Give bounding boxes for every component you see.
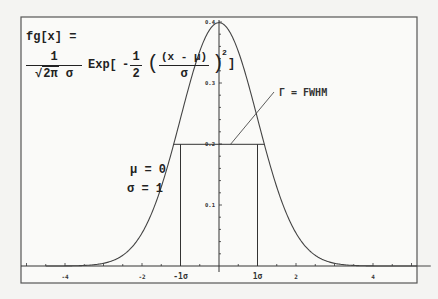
left-paren: (	[147, 52, 159, 75]
formula-lhs: fg[x] =	[26, 30, 76, 44]
y-tick-label: 0.4	[205, 19, 216, 25]
x-tick-label: 2	[294, 273, 298, 280]
coefficient-fraction: 1 √2π σ	[26, 50, 82, 81]
coef-numerator: 1	[26, 50, 82, 64]
x-tick-label: -2	[138, 273, 146, 280]
sigma-label: -1σ	[173, 272, 188, 281]
inner-fraction: (x - μ) σ	[159, 50, 209, 81]
x-tick-label: 4	[371, 273, 375, 280]
exponent: 2	[222, 48, 227, 57]
sigma-param: σ = 1	[127, 182, 163, 196]
mu-param: μ = 0	[130, 163, 166, 177]
sigma-label: 1σ	[253, 272, 263, 281]
half-fraction: 1 2	[130, 50, 142, 81]
coef-denominator: √2π σ	[26, 67, 82, 81]
gaussian-chart: -4-2240.10.20.30.4-1σ1σΓ = FWHM	[0, 0, 438, 299]
minus-sign: -	[122, 58, 129, 72]
y-tick-label: 0.1	[205, 202, 216, 208]
exp-label: Exp[	[88, 58, 117, 72]
fwhm-label: Γ = FWHM	[279, 87, 327, 98]
x-tick-label: -4	[61, 273, 69, 280]
y-tick-label: 0.2	[205, 141, 215, 147]
close-bracket: ]	[228, 57, 235, 71]
